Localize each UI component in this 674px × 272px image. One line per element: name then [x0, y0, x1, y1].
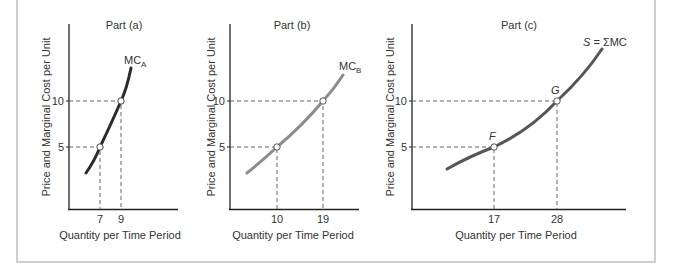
panel-a-y-axis-label: Price and Marginal Cost per Unit — [40, 38, 52, 197]
mc-a-label: MCA — [124, 54, 147, 69]
panel-b-x-axis-label: Quantity per Time Period — [232, 229, 354, 241]
panel-b-ytick-label-10: 10 — [213, 95, 225, 107]
point-f-label: F — [489, 130, 497, 142]
mc-b-label: MCB — [339, 60, 361, 75]
panel-a-title: Part (a) — [106, 19, 143, 31]
panel-a-xtick-label-7: 7 — [97, 213, 103, 225]
panel-c-ytick-label-10: 10 — [395, 95, 407, 107]
panel-b-point-10-5 — [274, 144, 280, 150]
supply-curve-label: S = ΣMC — [583, 36, 627, 48]
panel-b: Part (b) Price and Marginal Cost per Uni… — [205, 19, 361, 241]
panel-c: Part (c) Price and Marginal Cost per Uni… — [384, 19, 627, 241]
panel-b-ytick-label-5: 5 — [219, 141, 225, 153]
point-g — [554, 98, 560, 104]
panel-c-title: Part (c) — [501, 19, 537, 31]
panel-b-xtick-label-19: 19 — [317, 213, 329, 225]
marginal-cost-figure: Part (a) Price and Marginal Cost per Uni… — [0, 0, 674, 272]
panel-b-y-axis-label: Price and Marginal Cost per Unit — [205, 38, 217, 197]
mc-a-curve — [86, 68, 131, 173]
panel-a: Part (a) Price and Marginal Cost per Uni… — [40, 19, 181, 241]
panel-c-ytick-label-5: 5 — [401, 141, 407, 153]
panel-a-x-axis-label: Quantity per Time Period — [59, 229, 181, 241]
supply-curve — [447, 49, 602, 169]
point-f — [491, 144, 497, 150]
panel-c-xtick-label-28: 28 — [551, 213, 563, 225]
panel-a-xtick-label-9: 9 — [118, 213, 124, 225]
panel-a-ytick-label-10: 10 — [52, 95, 64, 107]
panel-c-dashed-guides — [412, 101, 557, 209]
mc-b-curve — [247, 75, 343, 173]
panel-a-point-7-5 — [97, 144, 103, 150]
panel-b-point-19-10 — [320, 98, 326, 104]
panel-c-xtick-label-17: 17 — [488, 213, 500, 225]
point-g-label: G — [551, 84, 560, 96]
panel-b-title: Part (b) — [274, 19, 311, 31]
panel-c-y-axis-label: Price and Marginal Cost per Unit — [384, 38, 396, 197]
panel-b-xtick-label-10: 10 — [271, 213, 283, 225]
panel-a-point-9-10 — [118, 98, 124, 104]
panel-c-x-axis-label: Quantity per Time Period — [455, 229, 577, 241]
panel-a-ytick-label-5: 5 — [58, 141, 64, 153]
